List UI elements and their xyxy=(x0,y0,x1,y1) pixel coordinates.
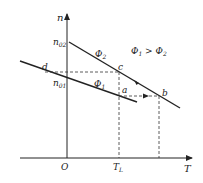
flux-condition-label: Φ1 > Φ2 xyxy=(131,46,167,57)
phi1-line-label: Φ1 xyxy=(94,79,105,90)
x-axis-label: T xyxy=(184,163,192,174)
y-axis-label: n xyxy=(57,12,63,23)
point-b-label: b xyxy=(162,88,168,98)
n02-label: n02 xyxy=(53,37,67,48)
point-d-label: d xyxy=(42,62,48,72)
point-c-label: c xyxy=(118,62,123,72)
diagram-canvas: n T O n02 n01 Φ2 Φ1 Φ1 > Φ2 c d a b TL xyxy=(0,0,203,183)
arrow-a-to-b-icon xyxy=(143,94,149,99)
phi2-line-label: Φ2 xyxy=(95,49,106,60)
origin-label: O xyxy=(61,162,69,172)
load-torque-label: TL xyxy=(113,162,123,173)
point-a-label: a xyxy=(122,85,127,95)
n01-label: n01 xyxy=(53,78,66,89)
